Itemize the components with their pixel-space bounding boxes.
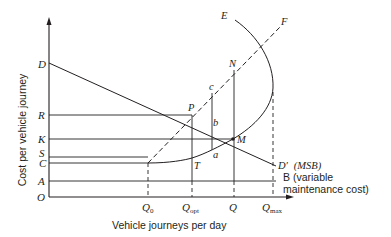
x-axis-arrow-icon — [286, 195, 294, 200]
label-Q: Q — [229, 201, 237, 213]
label-K: K — [37, 133, 46, 145]
label-Qmax: Qmax — [262, 201, 283, 215]
label-A: A — [37, 175, 45, 187]
label-E: E — [220, 10, 228, 21]
label-c: c — [209, 81, 214, 92]
y-axis-letters: D R K S C A O — [37, 58, 47, 203]
label-maintenance-line-2: maintenance cost) — [283, 183, 369, 195]
point-M-dot — [231, 137, 235, 141]
label-N: N — [228, 58, 237, 69]
axes — [47, 17, 295, 200]
label-b: b — [213, 117, 218, 128]
y-axis-title: Cost per vehicle journey — [16, 73, 28, 186]
label-Q0: Q0 — [142, 201, 154, 215]
label-P: P — [187, 102, 195, 113]
label-T: T — [194, 160, 201, 171]
label-maintenance-line-1: B (variable — [283, 171, 333, 183]
label-Qopt: Qopt — [182, 201, 199, 215]
y-axis-arrow-icon — [47, 17, 52, 25]
x-axis-labels: Q0 Qopt Q Qmax — [142, 201, 283, 215]
label-R: R — [37, 109, 45, 121]
curve-annotations: D′ (MSB) B (variable maintenance cost) — [277, 159, 369, 195]
demand-line-msb — [49, 63, 276, 166]
label-C: C — [39, 157, 47, 169]
label-D: D — [37, 58, 46, 70]
marginal-cost-line — [148, 27, 280, 163]
label-M: M — [236, 134, 247, 145]
x-axis-title: Vehicle journeys per day — [112, 219, 227, 231]
congestion-cost-diagram: D R K S C A O Cost per vehicle journey Q… — [0, 0, 391, 237]
label-a: a — [213, 149, 218, 160]
label-O: O — [37, 191, 45, 203]
label-F: F — [280, 16, 288, 27]
